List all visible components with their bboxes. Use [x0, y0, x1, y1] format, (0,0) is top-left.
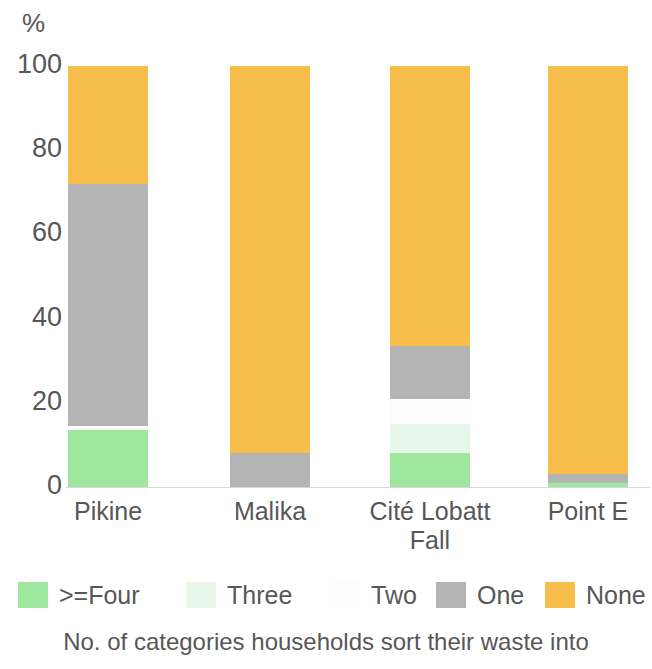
- legend-label: >=Four: [59, 581, 140, 610]
- bar-stack: [68, 66, 148, 487]
- legend-swatch-four-icon: [18, 582, 48, 608]
- y-tick-label-40: 40: [4, 304, 62, 331]
- bar-column-malika[interactable]: [230, 66, 310, 487]
- bar-segment-three[interactable]: [390, 424, 470, 453]
- chart-legend: >=FourThreeTwoOneNone: [0, 578, 652, 614]
- bar-segment-one[interactable]: [68, 184, 148, 426]
- legend-label: Two: [371, 581, 417, 610]
- legend-swatch-two-icon: [330, 582, 360, 608]
- y-tick-label-100: 100: [4, 51, 62, 78]
- bar-column-point-e[interactable]: [548, 66, 628, 487]
- legend-item-one[interactable]: One: [436, 578, 524, 612]
- legend-swatch-three-icon: [186, 582, 216, 608]
- bar-segment-none[interactable]: [230, 66, 310, 453]
- stacked-bar-chart: % 100806040200 PikineMalikaCité LobattFa…: [0, 0, 652, 669]
- chart-caption: No. of categories households sort their …: [0, 628, 652, 656]
- x-axis-label-line1: Point E: [513, 497, 652, 526]
- bar-segment-one[interactable]: [230, 453, 310, 487]
- y-tick-label-0: 0: [4, 472, 62, 499]
- legend-item-four[interactable]: >=Four: [18, 578, 140, 612]
- bar-segment-none[interactable]: [68, 66, 148, 184]
- bar-segment-four[interactable]: [390, 453, 470, 487]
- x-axis-label-line1: Cité Lobatt: [355, 497, 505, 526]
- x-axis-label-line2: Fall: [355, 526, 505, 555]
- bar-segment-one[interactable]: [390, 346, 470, 399]
- y-tick-label-60: 60: [4, 219, 62, 246]
- bar-segment-none[interactable]: [390, 66, 470, 346]
- y-axis-tick-labels: 100806040200: [0, 0, 62, 669]
- x-axis-label-line1: Pikine: [33, 497, 183, 526]
- y-tick-label-20: 20: [4, 388, 62, 415]
- bar-column-cité-lobatt-fall[interactable]: [390, 66, 470, 487]
- x-axis-label-malika: Malika: [195, 497, 345, 526]
- bar-segment-two[interactable]: [390, 399, 470, 424]
- x-axis-label-point-e: Point E: [513, 497, 652, 526]
- x-axis-line: [66, 487, 650, 488]
- x-axis-label-cité-lobatt-fall: Cité LobattFall: [355, 497, 505, 555]
- legend-swatch-none-icon: [545, 582, 575, 608]
- y-tick-label-80: 80: [4, 135, 62, 162]
- legend-item-three[interactable]: Three: [186, 578, 292, 612]
- bar-segment-four[interactable]: [68, 430, 148, 487]
- bar-stack: [548, 66, 628, 487]
- plot-area: [68, 66, 646, 487]
- bar-stack: [390, 66, 470, 487]
- bar-segment-one[interactable]: [548, 474, 628, 482]
- x-axis-label-pikine: Pikine: [33, 497, 183, 526]
- bar-segment-none[interactable]: [548, 66, 628, 474]
- x-axis-label-line1: Malika: [195, 497, 345, 526]
- legend-item-two[interactable]: Two: [330, 578, 417, 612]
- legend-label: None: [586, 581, 646, 610]
- bar-stack: [230, 66, 310, 487]
- legend-label: One: [477, 581, 524, 610]
- legend-item-none[interactable]: None: [545, 578, 646, 612]
- bar-segment-two[interactable]: [68, 426, 148, 430]
- legend-swatch-one-icon: [436, 582, 466, 608]
- legend-label: Three: [227, 581, 292, 610]
- bar-column-pikine[interactable]: [68, 66, 148, 487]
